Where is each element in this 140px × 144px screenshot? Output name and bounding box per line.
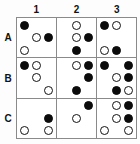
filled-dot[interactable] <box>124 101 133 110</box>
filled-dot[interactable] <box>84 101 93 110</box>
slot-a3-r2c2 <box>123 44 135 56</box>
slot-c2-r2c2 <box>83 125 95 137</box>
open-dot[interactable] <box>100 126 109 135</box>
slot-c1-r2c2 <box>43 125 55 137</box>
slot-c3-r2c1 <box>110 125 122 137</box>
slot-a1-r0c1 <box>30 19 42 31</box>
filled-dot[interactable] <box>72 46 81 55</box>
slot-b2-r2c2 <box>83 84 95 96</box>
slot-b2-r0c1 <box>70 59 82 71</box>
open-dot[interactable] <box>32 73 41 82</box>
empty-slot <box>60 61 69 70</box>
grid-cell-a2[interactable] <box>57 18 97 58</box>
slot-c3-r0c1 <box>110 100 122 112</box>
filled-dot[interactable] <box>124 61 133 70</box>
row-header-column: A B C <box>0 17 16 139</box>
empty-slot <box>84 21 93 30</box>
slot-c1-r1c1 <box>30 112 42 124</box>
empty-slot <box>32 86 41 95</box>
open-dot[interactable] <box>72 33 81 42</box>
filled-dot[interactable] <box>124 73 133 82</box>
empty-slot <box>72 101 81 110</box>
open-dot[interactable] <box>124 86 133 95</box>
empty-slot <box>20 33 29 42</box>
open-dot[interactable] <box>112 21 121 30</box>
empty-slot <box>32 126 41 135</box>
slot-a1-r0c2 <box>43 19 55 31</box>
empty-slot <box>60 126 69 135</box>
open-dot[interactable] <box>20 126 29 135</box>
filled-dot[interactable] <box>84 61 93 70</box>
slot-a1-r1c2 <box>43 31 55 43</box>
slot-c1-r2c0 <box>18 125 30 137</box>
grid-cell-c1[interactable] <box>17 99 57 139</box>
grid-cell-a3[interactable] <box>97 18 137 58</box>
grid-cell-a1[interactable] <box>17 18 57 58</box>
dot-grid <box>16 17 137 139</box>
filled-dot[interactable] <box>20 61 29 70</box>
empty-slot <box>100 86 109 95</box>
filled-dot[interactable] <box>112 46 121 55</box>
slot-c1-r1c2 <box>43 112 55 124</box>
column-header-1: 1 <box>16 0 56 17</box>
open-dot[interactable] <box>124 126 133 135</box>
slot-b1-r0c0 <box>18 59 30 71</box>
slot-a1-r0c0 <box>18 19 30 31</box>
filled-dot[interactable] <box>44 114 53 123</box>
slot-a2-r0c2 <box>83 19 95 31</box>
slot-b3-r0c1 <box>110 59 122 71</box>
open-dot[interactable] <box>112 114 121 123</box>
open-dot[interactable] <box>72 114 81 123</box>
empty-slot <box>60 46 69 55</box>
empty-slot <box>112 33 121 42</box>
grid-cell-b3[interactable] <box>97 58 137 98</box>
open-dot[interactable] <box>72 61 81 70</box>
slot-a2-r0c1 <box>70 19 82 31</box>
empty-slot <box>32 101 41 110</box>
filled-dot[interactable] <box>100 61 109 70</box>
filled-dot[interactable] <box>20 21 29 30</box>
grid-cell-c3[interactable] <box>97 99 137 139</box>
grid-cell-c2[interactable] <box>57 99 97 139</box>
empty-slot <box>44 101 53 110</box>
filled-dot[interactable] <box>44 33 53 42</box>
slot-b3-r1c2 <box>123 72 135 84</box>
empty-slot <box>72 126 81 135</box>
empty-slot <box>60 21 69 30</box>
row-header-b: B <box>0 58 16 99</box>
slot-b2-r0c0 <box>58 59 70 71</box>
filled-dot[interactable] <box>72 86 81 95</box>
slot-b2-r0c2 <box>83 59 95 71</box>
grid-cell-b1[interactable] <box>17 58 57 98</box>
slot-b1-r1c1 <box>30 72 42 84</box>
dot-matrix-figure: 1 2 3 A B C <box>0 0 140 144</box>
column-header-2: 2 <box>56 0 96 17</box>
filled-dot[interactable] <box>100 21 109 30</box>
filled-dot[interactable] <box>124 114 133 123</box>
empty-slot <box>20 73 29 82</box>
open-dot[interactable] <box>112 101 121 110</box>
filled-dot[interactable] <box>84 33 93 42</box>
open-dot[interactable] <box>112 73 121 82</box>
row-header-c: C <box>0 98 16 139</box>
open-dot[interactable] <box>100 46 109 55</box>
slot-c2-r0c2 <box>83 100 95 112</box>
open-dot[interactable] <box>32 33 41 42</box>
slot-a1-r2c2 <box>43 44 55 56</box>
empty-slot <box>84 86 93 95</box>
slot-b3-r1c1 <box>110 72 122 84</box>
open-dot[interactable] <box>32 61 41 70</box>
empty-slot <box>100 114 109 123</box>
open-dot[interactable] <box>20 46 29 55</box>
open-dot[interactable] <box>44 86 53 95</box>
filled-dot[interactable] <box>112 86 121 95</box>
grid-cell-b2[interactable] <box>57 58 97 98</box>
filled-dot[interactable] <box>84 73 93 82</box>
slot-c3-r1c0 <box>98 112 110 124</box>
slot-b1-r1c0 <box>18 72 30 84</box>
open-dot[interactable] <box>44 126 53 135</box>
open-dot[interactable] <box>72 21 81 30</box>
empty-slot <box>84 46 93 55</box>
slot-c2-r2c0 <box>58 125 70 137</box>
empty-slot <box>124 33 133 42</box>
